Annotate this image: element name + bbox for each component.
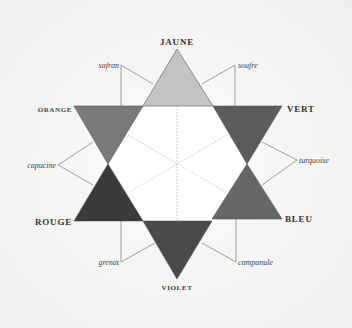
label-soufre: soufre: [238, 61, 258, 70]
label-vert: VERT: [287, 104, 315, 114]
label-capucine: capucine: [27, 161, 56, 170]
label-safran: safran: [99, 61, 119, 70]
color-star-diagram: JAUNE ORANGE VERT ROUGE BLEU VIOLET safr…: [0, 0, 352, 328]
label-bleu: BLEU: [285, 214, 313, 224]
label-turquoise: turquoise: [299, 156, 329, 165]
label-grenat: grenat: [98, 258, 119, 267]
label-rouge: ROUGE: [35, 217, 72, 227]
diagram-canvas: JAUNE ORANGE VERT ROUGE BLEU VIOLET safr…: [0, 0, 352, 328]
label-violet: VIOLET: [162, 284, 193, 292]
label-jaune: JAUNE: [160, 37, 194, 47]
label-campanule: campanule: [238, 258, 274, 267]
label-orange: ORANGE: [38, 106, 72, 114]
